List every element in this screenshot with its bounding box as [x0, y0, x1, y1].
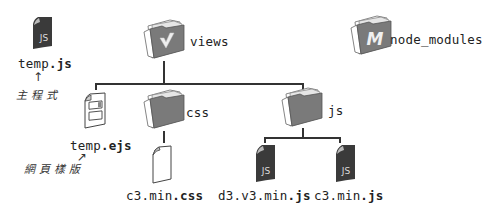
- js-file-icon: JS: [30, 16, 54, 50]
- svg-text:JS: JS: [39, 33, 49, 43]
- folder-node-icon: M: [347, 14, 395, 56]
- folder-vue-icon: [140, 18, 188, 60]
- css-folder[interactable]: [140, 88, 188, 130]
- connector-views-horizontal: [95, 83, 303, 85]
- folder-icon: [140, 88, 188, 130]
- connector-css: [163, 131, 165, 143]
- template-file-icon: [82, 92, 108, 130]
- arrow-up-icon: ↑: [33, 70, 43, 84]
- d3-v3-min-js-label: d3.v3.min.js: [218, 188, 311, 203]
- temp-js-annotation: 主程式: [16, 86, 61, 102]
- css-label: css: [186, 105, 209, 120]
- views-label: views: [190, 34, 229, 49]
- c3-min-js-label: c3.min.js: [314, 188, 384, 203]
- temp-js-label: temp.js: [18, 56, 72, 71]
- folder-icon: [278, 86, 326, 128]
- temp-ejs-annotation: 網頁樣版: [24, 160, 84, 176]
- connector-c3js: [339, 137, 341, 143]
- connector-d3: [264, 137, 266, 143]
- temp-ejs-node[interactable]: [82, 92, 108, 130]
- svg-text:M: M: [367, 29, 384, 49]
- views-folder[interactable]: [140, 18, 188, 60]
- blank-file-icon: [150, 145, 174, 185]
- c3-min-css-label: c3.min.css: [126, 188, 203, 203]
- js-file-icon: JS: [333, 144, 357, 184]
- d3-v3-min-js-node[interactable]: JS: [253, 144, 277, 184]
- js-label: js: [328, 103, 343, 118]
- node-modules-label: node_modules: [390, 32, 483, 47]
- js-folder[interactable]: [278, 86, 326, 128]
- c3-min-js-node[interactable]: JS: [333, 144, 357, 184]
- c3-min-css-node[interactable]: [150, 145, 174, 185]
- svg-text:JS: JS: [261, 166, 271, 176]
- svg-text:JS: JS: [341, 166, 351, 176]
- connector-js-horizontal: [264, 137, 340, 139]
- connector-temp-ejs: [95, 83, 97, 90]
- connector-views-down: [163, 61, 165, 84]
- node-modules-folder[interactable]: M: [347, 14, 395, 56]
- temp-js-node: JS: [30, 16, 54, 50]
- js-file-icon: JS: [253, 144, 277, 184]
